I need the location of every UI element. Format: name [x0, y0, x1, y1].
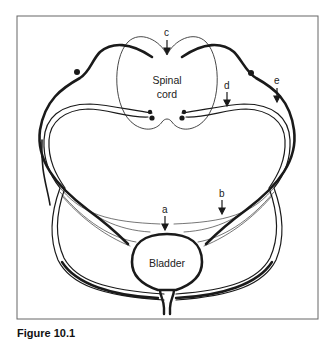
- arrow-d-icon: [224, 92, 230, 106]
- label-e: e: [274, 75, 280, 86]
- bladder-label: Bladder: [149, 257, 186, 269]
- label-d: d: [224, 80, 230, 91]
- ganglion-dot-right: [248, 70, 254, 76]
- figure-caption: Figure 10.1: [17, 327, 75, 339]
- label-a: a: [162, 204, 168, 215]
- label-b: b: [219, 188, 225, 199]
- spinal-cord-label-line1: Spinal: [152, 74, 181, 86]
- neuron-dot-left-1: [148, 110, 152, 114]
- arrows: [162, 40, 280, 230]
- neuron-dot-left-2: [149, 115, 154, 120]
- ganglion-dot-left: [74, 69, 80, 75]
- neuron-dot-right-1: [182, 110, 186, 114]
- neuron-dot-right-2: [179, 115, 184, 120]
- arrow-b-icon: [219, 200, 225, 214]
- spinal-cord-label-line2: cord: [157, 88, 178, 100]
- arrow-a-icon: [162, 216, 168, 230]
- label-c: c: [164, 27, 169, 38]
